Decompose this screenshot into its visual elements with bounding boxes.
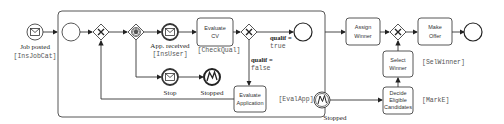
app-received-annotation: [InsUser] [152,51,187,58]
job-posted-annotation: [InsJobCat] [14,53,57,60]
mark-e-annotation: [MarkE] [422,97,449,104]
select-winner-line1: Select [390,57,406,63]
evaluate-cv-task[interactable]: Evaluate CV [197,18,233,46]
stop-message-event[interactable] [162,69,178,85]
assign-winner-line1: Assign [355,24,372,30]
make-offer-line1: Make [428,24,441,30]
stopped-end-label: Stopped [201,89,224,97]
decide-eligible-line3: Candidates [384,104,412,110]
evaluate-application-task[interactable]: Evaluate Application [234,86,266,112]
qualif-false-value: false [251,65,271,72]
make-offer-line2: Offer [429,33,441,39]
job-posted-start-event[interactable] [27,24,43,40]
stop-label: Stop [164,89,177,97]
final-end-event[interactable] [464,23,482,41]
inner-end-event[interactable] [294,23,312,41]
decide-eligible-line2: Eligible [389,97,407,103]
assign-winner-task[interactable]: Assign Winner [346,18,380,45]
qualif-true-condition: qualif = [270,34,292,41]
xor-gateway-merge-winner[interactable] [390,24,406,40]
inner-start-event[interactable] [62,23,80,41]
boundary-stopped-event[interactable] [314,92,330,108]
evaluate-cv-line2: CV [211,33,219,39]
sel-winner-annotation: [SelWinner] [422,59,465,66]
eval-app-annotation: [EvalApp] [278,96,313,103]
qualif-false-condition: qualif = [251,56,273,63]
select-winner-task[interactable]: Select Winner [383,51,413,77]
job-posted-label: Job posted [20,43,50,51]
app-received-event[interactable] [162,24,178,40]
select-winner-line2: Winner [389,65,407,71]
bpmn-diagram: Job posted [InsJobCat] App. received [In… [0,0,504,124]
evaluate-application-line2: Application [237,100,264,106]
stopped-error-end-event[interactable] [204,69,220,85]
evaluate-cv-line1: Evaluate [204,25,225,31]
assign-winner-line2: Winner [354,33,372,39]
evaluate-application-line1: Evaluate [239,92,260,98]
check-qual-annotation: [CheckQual] [198,47,241,54]
app-received-label: App. received [150,42,190,50]
make-offer-task[interactable]: Make Offer [418,18,452,45]
decide-eligible-candidates-task[interactable]: Decide Eligible Candidates [383,87,413,114]
qualif-true-value: true [270,43,286,50]
decide-eligible-line1: Decide [389,90,406,96]
boundary-stopped-label: Stopped [324,114,347,122]
